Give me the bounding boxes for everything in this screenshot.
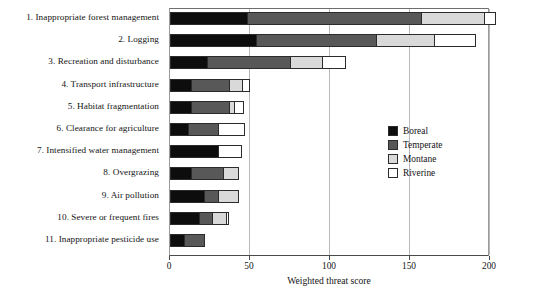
bar-segment-riverine xyxy=(484,12,497,25)
x-tick-label: 150 xyxy=(402,261,416,271)
x-tick xyxy=(169,256,170,260)
bar-segment-temperate xyxy=(191,167,223,180)
bar-segment-boreal xyxy=(170,12,247,25)
bar-segment-temperate xyxy=(188,123,218,136)
bar-segment-riverine xyxy=(322,56,346,69)
legend-item: Montane xyxy=(388,152,468,166)
x-tick-label: 50 xyxy=(244,261,253,271)
category-label: 1. Inappropriate forest management xyxy=(26,12,159,22)
x-axis-title: Weighted threat score xyxy=(169,275,489,286)
bar-segment-boreal xyxy=(170,34,256,47)
category-label: 9. Air pollution xyxy=(102,190,159,200)
legend-label: Montane xyxy=(403,154,436,164)
category-label: 8. Overgrazing xyxy=(103,167,159,177)
bar-segment-boreal xyxy=(170,123,188,136)
bar-segment-boreal xyxy=(170,79,191,92)
bar-segment-montane xyxy=(212,212,226,225)
bar-segment-montane xyxy=(376,34,434,47)
bar-segment-riverine xyxy=(234,101,244,114)
category-label: 3. Recreation and disturbance xyxy=(48,56,159,66)
x-tick xyxy=(489,256,490,260)
bar-segment-temperate xyxy=(207,56,290,69)
bar-segment-montane xyxy=(421,12,483,25)
x-axis: Weighted threat score 050100150200 xyxy=(169,256,489,302)
category-label: 10. Severe or frequent fires xyxy=(57,212,159,222)
bar-segment-riverine xyxy=(218,123,245,136)
bar-segment-temperate xyxy=(191,79,229,92)
category-label: 11. Inappropriate pesticide use xyxy=(45,234,159,244)
legend-swatch-icon xyxy=(388,168,398,178)
bar-segment-temperate xyxy=(247,12,421,25)
bar-segment-boreal xyxy=(170,101,191,114)
bar-segment-boreal xyxy=(170,212,199,225)
bar-segment-boreal xyxy=(170,145,218,158)
x-tick xyxy=(249,256,250,260)
bar-segment-temperate xyxy=(199,212,212,225)
bar-segment-montane xyxy=(218,190,239,203)
bar-segment-montane xyxy=(290,56,322,69)
bar-segment-riverine xyxy=(434,34,476,47)
category-label: 6. Clearance for agriculture xyxy=(57,123,159,133)
bar-segment-boreal xyxy=(170,234,184,247)
gridline-200 xyxy=(489,9,490,255)
bar-segment-riverine xyxy=(218,145,242,158)
legend-item: Temperate xyxy=(388,138,468,152)
category-label: 2. Logging xyxy=(118,34,159,44)
legend-swatch-icon xyxy=(388,154,398,164)
bar-segment-riverine xyxy=(242,79,250,92)
legend-label: Boreal xyxy=(403,126,428,136)
bar-segment-temperate xyxy=(256,34,376,47)
legend-label: Riverine xyxy=(403,168,435,178)
x-tick-label: 100 xyxy=(322,261,336,271)
bar-segment-temperate xyxy=(204,190,218,203)
bar-segment-riverine xyxy=(226,212,229,225)
bar-segment-boreal xyxy=(170,190,204,203)
legend-item: Riverine xyxy=(388,166,468,180)
bar-segment-boreal xyxy=(170,56,207,69)
chart-figure: 1. Inappropriate forest management2. Log… xyxy=(0,0,546,302)
bar-segment-montane xyxy=(223,167,239,180)
category-label: 7. Intensified water management xyxy=(37,145,159,155)
x-tick xyxy=(409,256,410,260)
legend-swatch-icon xyxy=(388,126,398,136)
x-tick-label: 200 xyxy=(482,261,496,271)
bar-segment-temperate xyxy=(191,101,229,114)
x-tick xyxy=(329,256,330,260)
category-label: 5. Habitat fragmentation xyxy=(68,101,159,111)
chart-legend: BorealTemperateMontaneRiverine xyxy=(388,124,468,180)
bar-segment-boreal xyxy=(170,167,191,180)
legend-item: Boreal xyxy=(388,124,468,138)
category-axis-labels: 1. Inappropriate forest management2. Log… xyxy=(2,8,164,256)
legend-swatch-icon xyxy=(388,140,398,150)
legend-label: Temperate xyxy=(403,140,442,150)
bar-segment-temperate xyxy=(184,234,205,247)
category-label: 4. Transport infrastructure xyxy=(61,79,159,89)
bar-segment-montane xyxy=(229,79,242,92)
x-tick-label: 0 xyxy=(167,261,172,271)
